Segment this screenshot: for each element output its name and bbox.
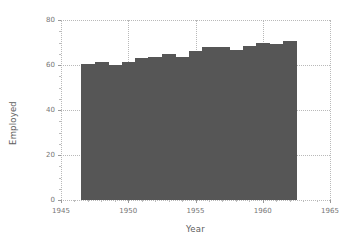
bar <box>202 47 216 200</box>
x-tick-mark <box>128 200 129 203</box>
x-tick-label: 1950 <box>108 207 148 215</box>
bar <box>243 46 257 200</box>
gridline-x <box>330 20 331 200</box>
x-minor-tick-mark <box>88 200 89 202</box>
bar <box>81 64 95 200</box>
x-minor-tick-mark <box>317 200 318 202</box>
bar <box>283 41 297 200</box>
x-tick-mark <box>263 200 264 203</box>
x-tick-label: 1960 <box>243 207 283 215</box>
bar-series <box>61 20 330 200</box>
x-minor-tick-mark <box>182 200 183 202</box>
x-minor-tick-mark <box>115 200 116 202</box>
x-minor-tick-mark <box>169 200 170 202</box>
y-tick-label: 40 <box>46 106 55 114</box>
x-tick-label: 1945 <box>41 207 81 215</box>
x-tick-label: 1955 <box>176 207 216 215</box>
bar <box>269 44 283 200</box>
bar <box>175 57 189 200</box>
x-minor-tick-mark <box>290 200 291 202</box>
y-tick-label: 0 <box>50 196 55 204</box>
x-minor-tick-mark <box>155 200 156 202</box>
y-axis-title-text: Employed <box>8 101 18 145</box>
x-minor-tick-mark <box>101 200 102 202</box>
x-minor-tick-mark <box>276 200 277 202</box>
x-axis-title: Year <box>61 224 330 234</box>
chart-figure: Employed Year 020406080 1945195019551960… <box>0 0 354 245</box>
x-minor-tick-mark <box>142 200 143 202</box>
bar <box>135 58 149 200</box>
bar <box>95 62 109 200</box>
y-tick-label: 80 <box>46 16 55 24</box>
y-tick-label: 60 <box>46 61 55 69</box>
y-axis-title: Employed <box>6 0 20 245</box>
x-minor-tick-mark <box>249 200 250 202</box>
x-minor-tick-mark <box>209 200 210 202</box>
x-tick-mark <box>61 200 62 203</box>
bar <box>162 54 176 200</box>
bar <box>229 50 243 200</box>
bar <box>256 43 270 200</box>
x-minor-tick-mark <box>222 200 223 202</box>
x-minor-tick-mark <box>74 200 75 202</box>
bar <box>148 57 162 200</box>
x-tick-label: 1965 <box>310 207 350 215</box>
x-minor-tick-mark <box>303 200 304 202</box>
bar <box>122 62 136 200</box>
x-tick-mark <box>196 200 197 203</box>
x-minor-tick-mark <box>236 200 237 202</box>
x-tick-mark <box>330 200 331 203</box>
x-axis-title-text: Year <box>186 224 205 234</box>
y-tick-label: 20 <box>46 151 55 159</box>
bar <box>216 47 230 200</box>
bar <box>108 65 122 200</box>
plot-area <box>61 20 330 200</box>
bar <box>189 51 203 200</box>
